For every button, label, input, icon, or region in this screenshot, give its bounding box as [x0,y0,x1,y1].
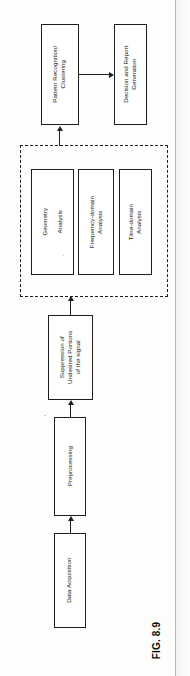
edge-suppression-to-group-line [70,300,71,315]
node-time-domain-analysis: Time-domain Analysis [119,169,152,275]
edge-preprocessing-to-suppression-arrowhead [68,400,74,405]
figure-caption-label: FIG. 8.9 [152,621,163,659]
page-edge-shadow [176,0,190,676]
node-frequency-domain-analysis: Frequency-domain Analysis [78,169,114,275]
edge-suppression-to-group-arrowhead [68,296,74,301]
node-pattern-recognition-label: Pattern Recognition/ Clustering [52,46,68,103]
node-preprocessing: Preprocessing [54,417,86,516]
scanned-page: Pattern Recognition/ Clustering Decision… [0,0,190,676]
edge-preprocessing-to-suppression-line [70,404,71,417]
edge-acquisition-to-preprocessing-arrowhead [68,516,74,521]
figure-caption: FIG. 8.9 [146,612,168,668]
edge-pattern-to-decision-line [79,74,110,75]
edge-acquisition-to-preprocessing-line [70,520,71,533]
node-data-acquisition: Data Acquisition [54,533,86,628]
node-time-domain-analysis-label: Time-domain Analysis [127,204,143,240]
node-decision-report: Decision and Report Generation [114,24,147,125]
node-frequency-domain-analysis-label: Frequency-domain Analysis [88,196,104,248]
node-preprocessing-label: Preprocessing [66,446,74,486]
node-geometry-analysis-label: Geometry Analysis [41,208,64,236]
node-decision-report-label: Decision and Report Generation [122,46,138,103]
node-geometry-analysis: Geometry Analysis [31,169,74,275]
node-pattern-recognition: Pattern Recognition/ Clustering [41,24,79,125]
edge-group-to-pattern-line [59,130,60,146]
scan-speck [63,255,64,256]
node-data-acquisition-label: Data Acquisition [66,558,74,603]
node-suppression-label: Suppression of Undesired Portions of the… [58,331,83,385]
node-suppression: Suppression of Undesired Portions of the… [48,315,93,400]
scan-speck [44,415,46,416]
edge-group-to-pattern-arrowhead [57,126,63,131]
